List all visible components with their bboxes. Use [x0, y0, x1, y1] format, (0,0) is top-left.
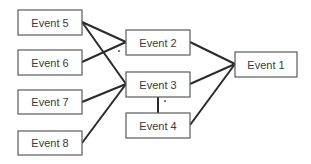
node-event-1[interactable]: Event 1 [235, 52, 297, 77]
edge-event2-event1 [190, 42, 235, 64]
node-event-7[interactable]: Event 7 [18, 90, 82, 114]
node-event-4[interactable]: Event 4 [126, 113, 190, 138]
node-event-8[interactable]: Event 8 [18, 131, 82, 155]
node-label: Event 3 [139, 79, 176, 91]
nodes-layer: Event 5 Event 6 Event 7 Event 8 Event 2 … [18, 10, 297, 155]
node-label: Event 2 [139, 37, 176, 49]
node-event-5[interactable]: Event 5 [18, 10, 82, 35]
marker-dot [118, 50, 120, 52]
node-event-6[interactable]: Event 6 [18, 50, 82, 75]
edge-event6-event2 [82, 42, 126, 62]
node-label: Event 5 [31, 17, 68, 29]
event-diagram: Event 5 Event 6 Event 7 Event 8 Event 2 … [0, 0, 311, 164]
node-label: Event 4 [139, 120, 176, 132]
node-label: Event 6 [31, 57, 68, 69]
node-event-2[interactable]: Event 2 [126, 30, 190, 55]
node-label: Event 1 [247, 59, 284, 71]
marker-dot [164, 100, 166, 102]
node-event-3[interactable]: Event 3 [126, 72, 190, 97]
node-label: Event 7 [31, 96, 68, 108]
node-label: Event 8 [31, 137, 68, 149]
